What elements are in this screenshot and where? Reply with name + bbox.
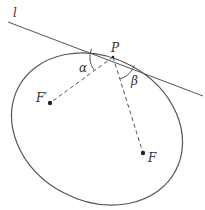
label-focus-f: F <box>147 151 157 165</box>
focus-f-prime-dot <box>48 101 52 105</box>
angle-arc-alpha <box>90 49 94 71</box>
label-point-p: P <box>110 41 120 55</box>
label-angle-beta: β <box>130 74 138 88</box>
ellipse-diagram: l P F′ F α β <box>0 0 205 210</box>
ellipse <box>0 24 205 210</box>
label-focus-f-prime: F′ <box>35 91 47 105</box>
tangent-line <box>8 22 203 96</box>
label-tangent-line: l <box>13 6 17 20</box>
point-p-dot <box>112 56 115 59</box>
focus-f-dot <box>141 151 145 155</box>
label-angle-alpha: α <box>79 61 87 75</box>
